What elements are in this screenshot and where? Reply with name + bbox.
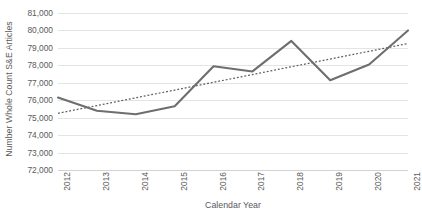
x-tick-label: 2018 — [295, 172, 305, 191]
y-axis-tick-labels: 81,00080,00079,00078,00077,00076,00075,0… — [18, 0, 56, 178]
y-tick-label: 81,000 — [27, 8, 53, 18]
x-tick-label: 2015 — [179, 172, 189, 191]
y-tick-label: 80,000 — [27, 25, 53, 35]
y-axis-title-text: Number Whole Count S&E Articles — [4, 21, 14, 156]
y-tick-label: 79,000 — [27, 43, 53, 53]
x-tick-label: 2019 — [334, 172, 344, 191]
x-tick-label: 2014 — [140, 172, 150, 191]
plot-area — [58, 13, 408, 170]
y-axis-title: Number Whole Count S&E Articles — [0, 0, 18, 178]
data-series-line — [58, 30, 408, 114]
x-tick-label: 2012 — [62, 172, 72, 191]
x-tick-label: 2013 — [101, 172, 111, 191]
x-tick-label: 2017 — [256, 172, 266, 191]
x-axis-tick-labels: 2012201320142015201620172018201920202021 — [58, 172, 408, 200]
series-svg — [58, 13, 408, 170]
trendline-series — [58, 44, 408, 114]
y-tick-label: 76,000 — [27, 95, 53, 105]
y-tick-label: 78,000 — [27, 60, 53, 70]
y-tick-label: 75,000 — [27, 113, 53, 123]
x-tick-label: 2020 — [373, 172, 383, 191]
y-tick-label: 77,000 — [27, 78, 53, 88]
y-tick-label: 74,000 — [27, 130, 53, 140]
y-tick-label: 73,000 — [27, 148, 53, 158]
x-tick-label: 2021 — [412, 172, 422, 191]
x-tick-label: 2016 — [218, 172, 228, 191]
y-tick-label: 72,000 — [27, 165, 53, 175]
x-axis-title: Calendar Year — [58, 200, 408, 210]
